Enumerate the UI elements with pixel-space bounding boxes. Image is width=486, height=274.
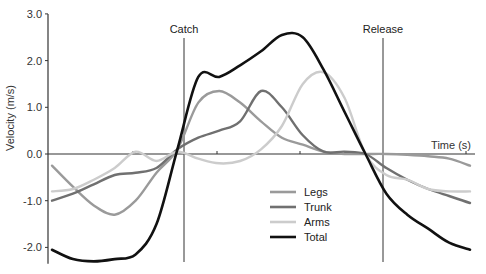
event-markers: CatchRelease (170, 23, 404, 262)
legend: LegsTrunkArmsTotal (270, 186, 332, 243)
velocity-chart: 3.02.01.00.0-1.0-2.0Time (s)Velocity (m/… (0, 0, 486, 274)
y-tick-label: 1.0 (27, 101, 42, 113)
series-trunk (52, 91, 470, 203)
series-total (52, 33, 470, 261)
series-lines (52, 33, 470, 261)
marker-label-catch: Catch (170, 23, 199, 35)
y-tick-label: 3.0 (27, 8, 42, 20)
legend-label-arms: Arms (304, 216, 330, 228)
y-tick-label: -1.0 (23, 195, 42, 207)
axes: 3.02.01.00.0-1.0-2.0Time (s)Velocity (m/… (4, 8, 475, 264)
series-legs (52, 91, 470, 215)
series-arms (52, 72, 470, 192)
y-tick-label: -2.0 (23, 241, 42, 253)
x-axis-label: Time (s) (431, 139, 471, 151)
marker-label-release: Release (363, 23, 403, 35)
y-tick-label: 2.0 (27, 55, 42, 67)
y-axis-label: Velocity (m/s) (4, 85, 16, 151)
legend-label-total: Total (304, 231, 327, 243)
legend-label-trunk: Trunk (304, 201, 332, 213)
legend-label-legs: Legs (304, 186, 328, 198)
y-tick-label: 0.0 (27, 148, 42, 160)
